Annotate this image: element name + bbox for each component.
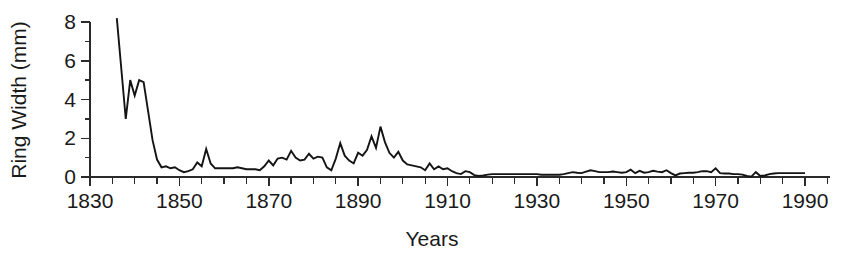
x-tick-label: 1890 — [335, 189, 382, 212]
x-tick-label: 1950 — [603, 189, 650, 212]
y-tick-label: 6 — [64, 49, 76, 72]
x-tick-label: 1930 — [514, 189, 561, 212]
x-tick-label: 1870 — [245, 189, 292, 212]
ring-width-series-line — [117, 18, 805, 176]
y-tick-label: 4 — [64, 88, 76, 111]
y-tick-label: 2 — [64, 126, 76, 149]
x-tick-label: 1910 — [424, 189, 471, 212]
x-tick-label: 1830 — [67, 189, 114, 212]
y-tick-label: 0 — [64, 165, 76, 188]
chart-canvas: 0246818301850187018901910193019501970199… — [0, 0, 854, 263]
x-tick-label: 1850 — [156, 189, 203, 212]
x-tick-label: 1990 — [782, 189, 829, 212]
x-axis-title: Years — [406, 227, 459, 250]
y-tick-label: 8 — [64, 10, 76, 33]
x-tick-label: 1970 — [692, 189, 739, 212]
y-axis-title: Ring Width (mm) — [7, 21, 30, 179]
ring-width-chart-figure: 0246818301850187018901910193019501970199… — [0, 0, 854, 263]
